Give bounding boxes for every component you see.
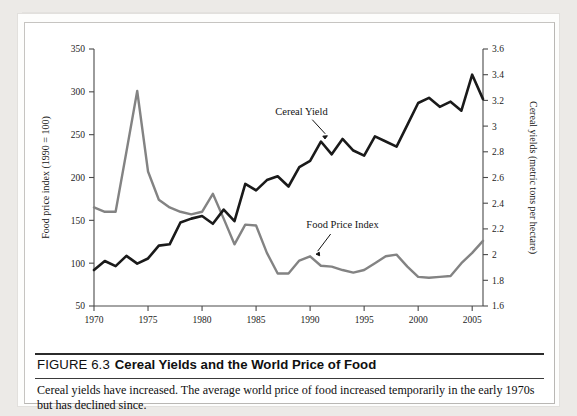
y-tick-label-right: 2 [492, 250, 497, 260]
annotation-arrowhead-food-price-index [316, 252, 320, 256]
figure-caption: Cereal yields have increased. The averag… [37, 383, 540, 413]
figure-frame: 501001502002503003501.61.822.22.42.62.83… [24, 22, 555, 404]
y-axis-title-left: Food price index (1990 = 100) [40, 116, 52, 239]
y-tick-label-right: 1.8 [492, 276, 504, 286]
y-tick-label-right: 2.2 [492, 224, 504, 234]
y-axis-title-right: Cereal yields (metric tons per hectare) [527, 101, 539, 254]
y-tick-label-left: 50 [76, 301, 86, 311]
x-tick-label: 2005 [463, 315, 482, 325]
y-tick-label-right: 3.6 [492, 44, 504, 54]
x-tick-label: 1990 [301, 315, 320, 325]
y-tick-label-right: 3.2 [492, 96, 504, 106]
y-tick-label-right: 1.6 [492, 301, 504, 311]
figure-heading: FIGURE 6.3Cereal Yields and the World Pr… [37, 357, 542, 372]
y-tick-label-left: 100 [71, 259, 86, 269]
y-tick-label-left: 300 [71, 87, 86, 97]
caption-top-rule [35, 353, 544, 355]
y-tick-label-left: 150 [71, 216, 86, 226]
annotation-cereal-yield: Cereal Yield [275, 106, 328, 117]
y-tick-label-left: 250 [71, 130, 86, 140]
page-sheet: 501001502002503003501.61.822.22.42.62.83… [18, 14, 559, 406]
x-tick-label: 2000 [409, 315, 428, 325]
caption-mid-rule [35, 378, 544, 379]
y-tick-label-right: 2.8 [492, 147, 504, 157]
x-tick-label: 1975 [139, 315, 158, 325]
x-tick-label: 1970 [85, 315, 104, 325]
figure-title: Cereal Yields and the World Price of Foo… [115, 357, 376, 372]
figure-number: FIGURE 6.3 [37, 357, 110, 372]
dual-axis-line-chart: 501001502002503003501.61.822.22.42.62.83… [25, 23, 554, 345]
y-tick-label-right: 3.4 [492, 70, 504, 80]
annotation-leader-food-price-index [318, 234, 331, 251]
x-tick-label: 1980 [193, 315, 212, 325]
y-tick-label-right: 3 [492, 122, 497, 132]
y-tick-label-right: 2.4 [492, 199, 504, 209]
chart-area: 501001502002503003501.61.822.22.42.62.83… [25, 23, 554, 345]
y-tick-label-left: 200 [71, 173, 86, 183]
x-tick-label: 1985 [247, 315, 266, 325]
y-tick-label-right: 2.6 [492, 173, 504, 183]
y-tick-label-left: 350 [71, 44, 86, 54]
series-line-cereal-yield [94, 75, 483, 270]
annotation-food-price-index: Food Price Index [306, 219, 379, 230]
annotation-arrowhead-cereal-yield [323, 136, 328, 139]
x-tick-label: 1995 [355, 315, 374, 325]
annotation-leader-cereal-yield [312, 120, 325, 134]
scanned-page: 501001502002503003501.61.822.22.42.62.83… [0, 0, 577, 416]
